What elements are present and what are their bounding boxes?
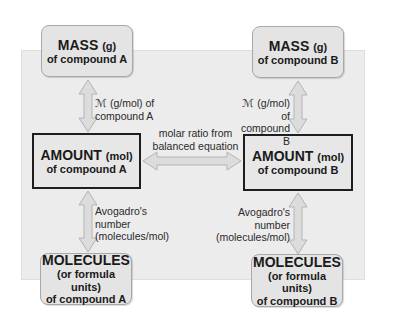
box-subtitle: (or formula units) bbox=[252, 270, 342, 295]
double-arrow-molar-ratio bbox=[143, 151, 241, 171]
box-subtitle: of compound A bbox=[46, 293, 126, 306]
box-title: MOLECULES bbox=[253, 254, 341, 270]
avogadro-b-label: Avogadro's number (molecules/mol) bbox=[212, 206, 290, 244]
box-subtitle: of compound B bbox=[258, 164, 339, 177]
box-title: MASS (g) bbox=[269, 38, 327, 54]
box-title: MOLECULES bbox=[42, 252, 130, 268]
box-title: AMOUNT (mol) bbox=[40, 147, 132, 163]
molar-ratio-label: molar ratio from balanced equation bbox=[148, 127, 243, 152]
mass-compound-b-box: MASS (g) of compound B bbox=[252, 26, 344, 78]
amount-compound-a-box: AMOUNT (mol) of compound A bbox=[32, 133, 141, 189]
box-subtitle: of compound B bbox=[257, 295, 338, 308]
molecules-compound-a-box: MOLECULES (or formula units) of compound… bbox=[40, 253, 132, 305]
double-arrow-amount-molecules-b bbox=[288, 193, 308, 254]
box-subtitle: of compound A bbox=[47, 53, 127, 66]
avogadro-a-label: Avogadro's number (molecules/mol) bbox=[95, 205, 169, 243]
box-subtitle: of compound B bbox=[258, 54, 339, 67]
box-subtitle: (or formula units) bbox=[41, 268, 131, 293]
box-subtitle: of compound A bbox=[46, 163, 126, 176]
molar-mass-a-label: ℳ (g/mol) of compound A bbox=[95, 97, 154, 122]
box-title: MASS (g) bbox=[58, 37, 116, 53]
double-arrow-mass-amount-b bbox=[288, 81, 308, 133]
molecules-compound-b-box: MOLECULES (or formula units) of compound… bbox=[251, 254, 343, 307]
mass-compound-a-box: MASS (g) of compound A bbox=[41, 25, 133, 77]
box-title: AMOUNT (mol) bbox=[252, 148, 344, 164]
